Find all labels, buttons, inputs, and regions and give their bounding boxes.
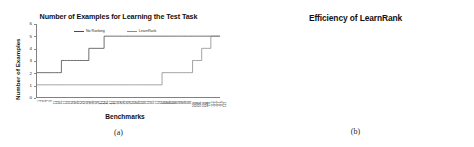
step-chart-a: [37, 24, 220, 97]
panel-caption-a: (a): [0, 128, 237, 137]
y-tick-label-a: 1: [20, 83, 32, 88]
x-axis-label-a: Benchmarks: [30, 113, 220, 120]
y-tick-label-a: 3: [20, 58, 32, 63]
plot-area-a: [36, 24, 220, 98]
chart-title-b: Efficiency of LearnRank: [237, 13, 474, 23]
legend-a: No Ranking LearnRank: [74, 29, 156, 33]
y-tick-label-a: 6: [20, 21, 32, 26]
legend-entry-no-ranking-a: No Ranking: [74, 29, 105, 33]
legend-label-learnrank-a: LearnRank: [139, 29, 157, 33]
y-tick-label-a: 0: [20, 95, 32, 100]
legend-entry-learnrank-a: LearnRank: [127, 29, 157, 33]
legend-label-no-ranking-a: No Ranking: [86, 29, 105, 33]
y-tick-label-a: 2: [20, 71, 32, 76]
panel-caption-b: (b): [237, 127, 474, 136]
legend-swatch-no-ranking-a: [74, 31, 84, 32]
x-axis-ticks-a: 1357911131517192123252729313335373941434…: [36, 99, 220, 113]
chart-title-a: Number of Examples for Learning the Test…: [0, 12, 237, 21]
y-tick-label-a: 5: [20, 34, 32, 39]
y-tick-label-a: 4: [20, 46, 32, 51]
legend-swatch-learnrank-a: [127, 31, 137, 32]
figure-panel-b: Efficiency of LearnRank Running Time (in…: [237, 0, 474, 147]
figure-panel-row: Number of Examples for Learning the Test…: [0, 0, 474, 147]
x-tick-label-a: 121: [223, 102, 227, 107]
figure-panel-a: Number of Examples for Learning the Test…: [0, 0, 237, 147]
